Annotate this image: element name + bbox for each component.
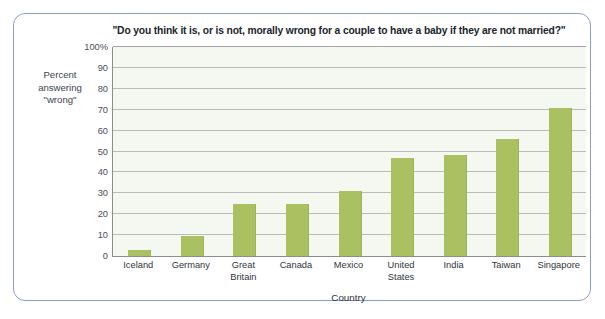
bar-series — [113, 47, 586, 256]
x-axis-tick-label: Singapore — [527, 260, 591, 272]
bar — [181, 236, 204, 256]
y-axis-tick-label: 10 — [98, 230, 108, 240]
y-axis-tick-label: 20 — [98, 209, 108, 219]
y-axis-tick-label: 100% — [84, 42, 108, 52]
x-axis-tick-labels: IcelandGermanyGreatBritainCanadaMexicoUn… — [112, 260, 585, 294]
y-axis-tick-label: 50 — [98, 147, 108, 157]
figure-frame: "Do you think it is, or is not, morally … — [13, 13, 591, 301]
bar — [496, 139, 519, 256]
y-axis-tick-label: 40 — [98, 167, 108, 177]
bar — [549, 108, 572, 256]
bar — [286, 204, 309, 256]
y-axis-tick-label: 60 — [98, 126, 108, 136]
y-axis-tick-label: 30 — [98, 188, 108, 198]
bar — [444, 155, 467, 256]
x-axis-title: Country — [112, 292, 585, 303]
bar — [128, 250, 151, 256]
x-axis-tick-label-line: Britain — [211, 272, 275, 284]
x-axis-tick-label-line: Singapore — [527, 260, 591, 272]
y-axis-tick-label: 70 — [98, 105, 108, 115]
bar — [339, 191, 362, 256]
chart-title: "Do you think it is, or is not, morally … — [94, 25, 584, 36]
y-axis-tick-labels: 0102030405060708090100% — [66, 47, 108, 256]
plot-area — [112, 47, 586, 257]
bar — [391, 158, 414, 256]
x-axis-tick-label-line: States — [369, 272, 433, 284]
y-axis-tick-label: 90 — [98, 63, 108, 73]
y-axis-tick-label: 80 — [98, 84, 108, 94]
bar — [233, 204, 256, 256]
